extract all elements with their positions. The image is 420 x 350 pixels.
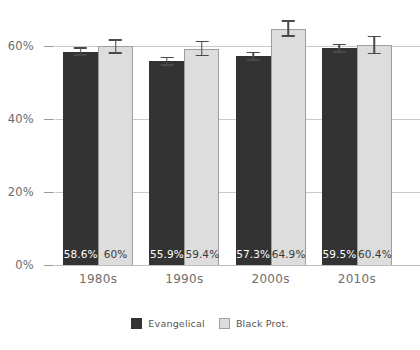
- error-bar-cap-bottom: [160, 64, 173, 66]
- y-axis-tick: [44, 192, 54, 193]
- error-bar-cap-bottom: [74, 54, 87, 56]
- bar-value-label: 57.3%: [236, 248, 271, 260]
- y-axis-tick: [44, 265, 54, 266]
- bar-1980s-black-prot[interactable]: 60%: [98, 46, 133, 265]
- error-bar-1990s-black-prot: [201, 41, 203, 56]
- chart-legend: EvangelicalBlack Prot.: [0, 318, 420, 329]
- x-axis-tick-label-2010s: 2010s: [338, 272, 376, 286]
- error-bar-cap-bottom: [368, 53, 381, 55]
- bar-value-label: 59.5%: [322, 248, 357, 260]
- bar-chart: 0%20%40%60% 58.6%60%55.9%59.4%57.3%64.9%…: [0, 0, 420, 350]
- error-bar-cap-bottom: [247, 59, 260, 61]
- error-bar-2010s-evangelical: [339, 44, 341, 53]
- error-bar-cap-bottom: [333, 51, 346, 53]
- bar-value-label: 55.9%: [149, 248, 184, 260]
- error-bar-cap-top: [195, 41, 208, 43]
- bar-group-2010s: 59.5%60.4%: [322, 10, 392, 265]
- bar-value-label: 59.4%: [185, 248, 218, 260]
- x-axis-tick-label-1980s: 1980s: [79, 272, 117, 286]
- bar-2010s-black-prot[interactable]: 60.4%: [357, 45, 392, 265]
- bar-group-1980s: 58.6%60%: [63, 10, 133, 265]
- bar-2010s-evangelical[interactable]: 59.5%: [322, 48, 357, 265]
- bar-value-label: 60.4%: [358, 248, 391, 260]
- x-axis-tick-label-1990s: 1990s: [165, 272, 203, 286]
- legend-label: Evangelical: [148, 318, 205, 329]
- bar-2000s-evangelical[interactable]: 57.3%: [236, 56, 271, 265]
- y-axis-tick-label: 60%: [0, 39, 34, 53]
- x-axis-tick-label-2000s: 2000s: [251, 272, 289, 286]
- error-bar-cap-top: [282, 20, 295, 22]
- bar-1990s-black-prot[interactable]: 59.4%: [184, 49, 219, 265]
- legend-item-blackprot[interactable]: Black Prot.: [219, 318, 289, 329]
- error-bar-cap-bottom: [195, 55, 208, 57]
- y-axis-tick-label: 20%: [0, 185, 34, 199]
- bar-2000s-black-prot[interactable]: 64.9%: [271, 29, 306, 265]
- bar-groups: 58.6%60%55.9%59.4%57.3%64.9%59.5%60.4%: [55, 10, 400, 265]
- bar-1980s-evangelical[interactable]: 58.6%: [63, 52, 98, 265]
- y-axis-tick-label: 0%: [0, 258, 34, 272]
- error-bar-2000s-black-prot: [287, 20, 289, 37]
- error-bar-1990s-evangelical: [166, 57, 168, 66]
- error-bar-2000s-evangelical: [252, 52, 254, 61]
- bar-group-2000s: 57.3%64.9%: [236, 10, 306, 265]
- legend-item-evangelical[interactable]: Evangelical: [131, 318, 205, 329]
- error-bar-cap-top: [368, 36, 381, 38]
- y-axis-tick: [44, 119, 54, 120]
- legend-label: Black Prot.: [236, 318, 289, 329]
- error-bar-1980s-evangelical: [80, 47, 82, 56]
- error-bar-cap-top: [109, 39, 122, 41]
- error-bar-cap-bottom: [109, 52, 122, 54]
- bar-1990s-evangelical[interactable]: 55.9%: [149, 61, 184, 265]
- plot-area: 0%20%40%60% 58.6%60%55.9%59.4%57.3%64.9%…: [55, 10, 400, 265]
- bar-value-label: 60%: [99, 248, 132, 260]
- error-bar-cap-top: [74, 47, 87, 49]
- y-axis-tick: [44, 46, 54, 47]
- bar-value-label: 58.6%: [63, 248, 98, 260]
- bar-group-1990s: 55.9%59.4%: [149, 10, 219, 265]
- gridline-0pct: [55, 265, 420, 266]
- legend-swatch-icon: [219, 318, 230, 329]
- y-axis-tick-label: 40%: [0, 112, 34, 126]
- error-bar-cap-top: [333, 44, 346, 46]
- error-bar-cap-bottom: [282, 35, 295, 37]
- x-axis-labels: 1980s1990s2000s2010s: [55, 272, 400, 294]
- bar-value-label: 64.9%: [272, 248, 305, 260]
- error-bar-cap-top: [160, 57, 173, 59]
- error-bar-2010s-black-prot: [374, 36, 376, 54]
- legend-swatch-icon: [131, 318, 142, 329]
- error-bar-1980s-black-prot: [115, 39, 117, 54]
- error-bar-cap-top: [247, 52, 260, 54]
